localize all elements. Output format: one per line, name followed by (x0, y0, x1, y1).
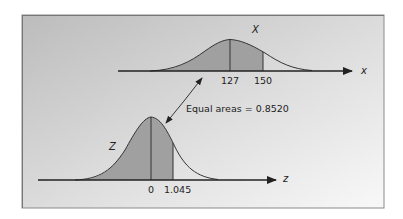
normal-distribution-diagram: x X 127 150 z Z 0 1.045 Equal areas = 0.… (0, 0, 403, 219)
z-mean-tick-label: 0 (148, 184, 154, 195)
z-distribution-name: Z (108, 141, 117, 152)
x-axis-label: x (360, 65, 367, 76)
z-axis-label: z (282, 173, 289, 184)
z-bound-tick-label: 1.045 (164, 184, 191, 195)
x-distribution-name: X (251, 24, 260, 35)
equal-areas-label: Equal areas = 0.8520 (186, 103, 289, 114)
diagram-stage: x X 127 150 z Z 0 1.045 Equal areas = 0.… (0, 0, 403, 219)
x-bound-tick-label: 150 (254, 75, 272, 86)
x-mean-tick-label: 127 (221, 75, 239, 86)
